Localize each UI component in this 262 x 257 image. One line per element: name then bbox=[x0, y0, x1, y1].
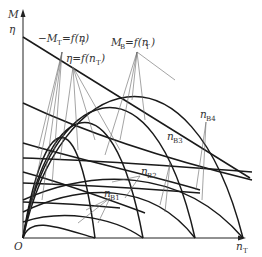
svg-text:B4: B4 bbox=[206, 115, 216, 123]
turbine-torque-lines bbox=[23, 37, 252, 213]
svg-text:): ) bbox=[150, 36, 155, 48]
y-axis-label-eta: η bbox=[9, 23, 16, 35]
label-nb3: n B3 bbox=[167, 130, 183, 145]
svg-text:): ) bbox=[84, 32, 89, 44]
svg-text:B3: B3 bbox=[173, 137, 183, 145]
svg-text:T: T bbox=[145, 43, 150, 51]
x-axis-label: n T bbox=[236, 240, 248, 255]
characteristic-diagram: M η O n T − bbox=[0, 0, 262, 257]
svg-text:−M: −M bbox=[38, 32, 58, 44]
label-efficiency: η=f(n T ) bbox=[66, 52, 105, 67]
y-axis-arrow-icon bbox=[21, 9, 26, 17]
svg-text:B2: B2 bbox=[147, 172, 157, 180]
svg-text:n: n bbox=[236, 240, 243, 252]
svg-text:B1: B1 bbox=[110, 194, 120, 202]
svg-text:): ) bbox=[100, 52, 105, 64]
y-axis-label-m: M bbox=[7, 8, 19, 20]
origin-label: O bbox=[14, 240, 23, 252]
label-pump-torque: M B =f(n T ) bbox=[110, 36, 155, 51]
label-turbine-torque: −M T =f(n T ) bbox=[38, 32, 89, 47]
label-nb4: n B4 bbox=[200, 108, 216, 123]
svg-text:η=f(n: η=f(n bbox=[66, 52, 96, 64]
svg-text:T: T bbox=[243, 247, 248, 255]
label-nb2: n B2 bbox=[141, 165, 157, 180]
